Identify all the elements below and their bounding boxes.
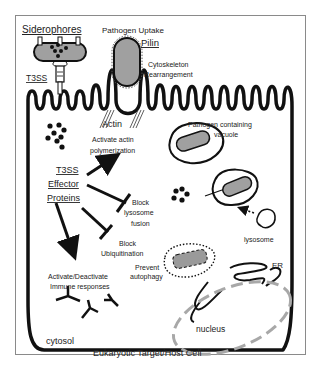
label-effector-t3ss: T3SS bbox=[56, 165, 79, 175]
label-polymerization: polymerization bbox=[90, 147, 135, 155]
label-activate-deactivate: Activate/Deactivate bbox=[48, 273, 108, 280]
label-er: ER bbox=[272, 261, 283, 270]
label-cytoskeleton: Cytoskeleton bbox=[148, 61, 189, 69]
label-cytosol: cytosol bbox=[46, 336, 74, 346]
label-siderophores: Siderophores bbox=[22, 24, 81, 35]
label-rearrangement: Rearrangement bbox=[144, 71, 193, 79]
label-vacuole: vacuole bbox=[214, 131, 238, 138]
label-t3ss: T3SS bbox=[26, 73, 48, 83]
label-pcv: Pathogen containing bbox=[188, 121, 252, 129]
label-prevent: Prevent bbox=[135, 264, 159, 271]
label-proteins: Proteins bbox=[47, 193, 81, 203]
label-block-lysosome: Block bbox=[132, 199, 150, 206]
label-ubiquitination: Ubiquitination bbox=[101, 250, 144, 258]
pathogen-containing-vacuole bbox=[169, 123, 223, 163]
label-pathogen-uptake: Pathogen Uptake bbox=[102, 26, 164, 35]
label-autophagy: autophagy bbox=[130, 273, 163, 281]
autophagy-vesicle bbox=[164, 244, 214, 277]
label-immune-responses: Immune responses bbox=[50, 283, 110, 291]
pathogen-vacuole-injecting bbox=[171, 170, 257, 205]
bacterium-siderophores bbox=[34, 37, 86, 61]
t3ss-needle bbox=[53, 61, 67, 94]
antibodies bbox=[56, 286, 118, 318]
label-lysosome: lysosome bbox=[244, 236, 274, 244]
cell-membrane bbox=[28, 70, 292, 350]
siderophore-dots bbox=[45, 122, 66, 149]
label-nucleus: nucleus bbox=[196, 324, 225, 334]
label-activate-actin: Activate actin bbox=[92, 136, 134, 143]
label-fusion: fusion bbox=[131, 220, 150, 227]
label-host-cell-title: Eukaryotic Target/Host Cell bbox=[93, 348, 201, 358]
host-cell-diagram: Siderophores Pathogen Uptake Pilin Cytos… bbox=[0, 0, 320, 383]
label-lysosome-word: lysosome bbox=[124, 209, 154, 217]
label-actin: Actin bbox=[102, 119, 122, 129]
label-effector: Effector bbox=[48, 179, 79, 189]
label-block-ubiq: Block bbox=[119, 240, 137, 247]
label-pilin: Pilin bbox=[141, 37, 159, 48]
pathogen-uptake-bacterium bbox=[112, 36, 142, 88]
lysosome bbox=[240, 208, 275, 228]
